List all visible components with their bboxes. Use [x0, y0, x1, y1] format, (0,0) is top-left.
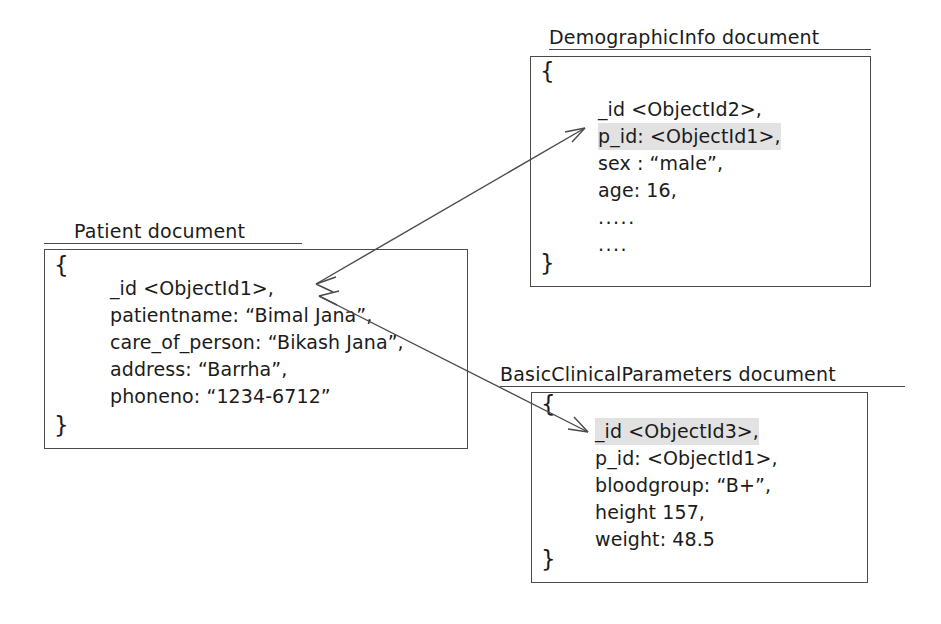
patient-document-title: Patient document: [44, 222, 302, 244]
clinical-document-body: _id <ObjectId3>, p_id: <ObjectId1>, bloo…: [595, 418, 778, 553]
demographic-document-title: DemographicInfo document: [549, 28, 871, 50]
code-line: _id <ObjectId2>,: [598, 96, 762, 123]
code-line: p_id: <ObjectId1>,: [598, 123, 781, 150]
code-line: age: 16,: [598, 177, 677, 204]
code-line: p_id: <ObjectId1>,: [595, 445, 778, 472]
patient-open-brace: {: [54, 254, 69, 277]
code-line: sex : “male”,: [598, 150, 723, 177]
code-line: address: “Barrha”,: [110, 356, 287, 383]
patient-document-title-text: Patient document: [44, 222, 245, 242]
code-line: _id <ObjectId3>,: [595, 418, 759, 445]
clinical-close-brace: }: [541, 548, 556, 571]
code-line: ....: [598, 231, 628, 258]
diagram-canvas: DemographicInfo document { _id <ObjectId…: [0, 0, 941, 624]
code-line: phoneno: “1234-6712”: [110, 383, 331, 410]
patient-document-body: _id <ObjectId1>, patientname: “Bimal Jan…: [110, 275, 404, 410]
code-line: patientname: “Bimal Jana”,: [110, 302, 372, 329]
code-line: .....: [598, 204, 636, 231]
demographic-document-body: _id <ObjectId2>, p_id: <ObjectId1>, sex …: [598, 96, 781, 258]
demographic-close-brace: }: [540, 252, 555, 275]
code-line: care_of_person: “Bikash Jana”,: [110, 329, 404, 356]
demographic-open-brace: {: [540, 60, 555, 83]
clinical-open-brace: {: [541, 393, 556, 416]
code-line: weight: 48.5: [595, 526, 715, 553]
code-line: bloodgroup: “B+”,: [595, 472, 771, 499]
code-line: _id <ObjectId1>,: [110, 275, 274, 302]
patient-close-brace: }: [54, 414, 69, 437]
clinical-document-title: BasicClinicalParameters document: [500, 365, 905, 387]
code-line: height 157,: [595, 499, 705, 526]
